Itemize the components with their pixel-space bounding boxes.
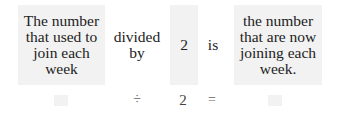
old-weekly-joiners-box: The number that used to join each week <box>18 5 105 85</box>
new-weekly-joiners-box: the number that are now joining each wee… <box>234 5 322 85</box>
is-label: is <box>202 5 224 85</box>
divisor-value: 2 <box>176 92 190 108</box>
divisor-box: 2 <box>170 5 198 85</box>
divided-by-label: divided by <box>112 5 162 85</box>
new-weekly-joiners-label: the number that are now joining each wee… <box>234 13 322 77</box>
equals-sign: = <box>205 92 219 108</box>
old-value-placeholder <box>54 95 68 106</box>
division-sign: ÷ <box>130 92 144 108</box>
new-value-placeholder <box>268 95 282 106</box>
old-weekly-joiners-label: The number that used to join each week <box>18 13 105 77</box>
